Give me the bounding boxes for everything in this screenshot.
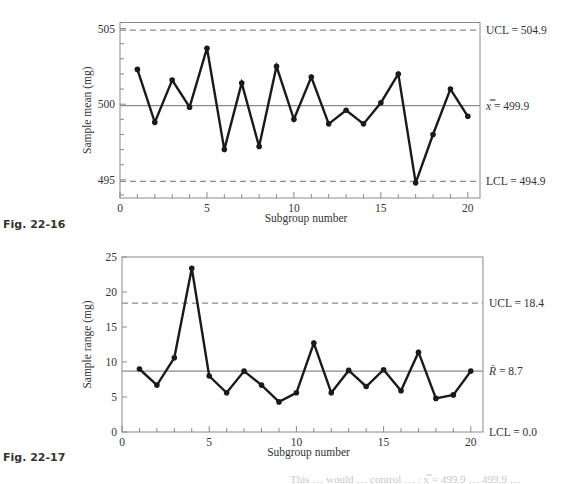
- control-charts-figure: 05101520495500505Subgroup numberSample m…: [0, 0, 561, 484]
- x-tick-label: 0: [119, 436, 125, 448]
- data-point: [328, 390, 334, 396]
- data-point: [346, 368, 352, 374]
- data-point: [172, 355, 178, 361]
- y-tick-label: 10: [106, 356, 118, 368]
- lcl-label: LCL = 494.9: [486, 175, 546, 187]
- x-axis-title: Subgroup number: [267, 446, 350, 459]
- data-point: [224, 390, 230, 396]
- data-point: [239, 80, 245, 86]
- data-point: [309, 74, 315, 80]
- lcl-label: LCL = 0.0: [489, 426, 537, 438]
- x-axis-title: Subgroup number: [265, 212, 348, 225]
- data-point: [430, 132, 436, 138]
- center-line-symbol: R̄: [488, 365, 496, 377]
- data-point: [187, 104, 193, 110]
- range-control-chart: 051015200510152025Subgroup numberSample …: [3, 251, 544, 464]
- data-series-line: [137, 48, 467, 183]
- cut-off-caption-text: This … would … control … : x̿ = 499.9 … …: [290, 473, 520, 484]
- y-tick-label: 0: [111, 426, 117, 438]
- data-point: [343, 107, 349, 113]
- figure-label: Fig. 22-17: [3, 451, 65, 464]
- y-tick-label: 20: [106, 286, 118, 298]
- data-point: [204, 45, 210, 51]
- data-point: [363, 384, 369, 390]
- figure-label: Fig. 22-16: [3, 218, 66, 231]
- data-point: [395, 71, 401, 77]
- data-point: [465, 114, 471, 120]
- ucl-label: UCL = 504.9: [486, 24, 547, 36]
- data-series-line: [139, 268, 470, 402]
- x-tick-label: 20: [465, 436, 477, 448]
- data-point: [259, 382, 265, 388]
- ucl-label: UCL = 18.4: [489, 297, 544, 309]
- data-point: [398, 388, 404, 394]
- data-point: [468, 368, 474, 374]
- data-point: [413, 180, 419, 186]
- data-point: [291, 117, 297, 123]
- x-tick-label: 5: [204, 202, 210, 214]
- data-point: [448, 86, 454, 92]
- data-point: [416, 349, 422, 355]
- y-axis-title: Sample mean (mg): [81, 66, 94, 154]
- y-tick-label: 495: [98, 174, 116, 186]
- y-tick-label: 500: [98, 98, 116, 110]
- data-point: [206, 373, 212, 379]
- data-point: [294, 390, 300, 396]
- data-point: [152, 120, 158, 126]
- data-point: [135, 67, 141, 73]
- center-line-value: = 8.7: [496, 365, 523, 377]
- data-point: [137, 366, 143, 372]
- data-point: [169, 77, 175, 83]
- data-point: [433, 396, 439, 402]
- center-line-value: = 499.9: [491, 100, 529, 112]
- x-tick-label: 0: [117, 202, 123, 214]
- data-point: [189, 265, 195, 271]
- x-tick-label: 15: [375, 202, 387, 214]
- data-point: [154, 382, 160, 388]
- data-point: [222, 147, 228, 153]
- data-point: [378, 100, 384, 106]
- y-tick-label: 5: [111, 391, 117, 403]
- data-point: [326, 121, 332, 127]
- data-point: [361, 121, 367, 127]
- x-tick-label: 15: [378, 436, 390, 448]
- data-point: [381, 367, 387, 373]
- center-line-label: R̄ = 8.7: [488, 365, 523, 377]
- data-point: [276, 399, 282, 405]
- x-tick-label: 20: [462, 202, 474, 214]
- x-tick-label: 5: [206, 436, 212, 448]
- data-point: [256, 144, 262, 150]
- plot-frame: [120, 23, 480, 199]
- center-line-label: x̿ = 499.9: [485, 99, 529, 112]
- data-point: [274, 64, 280, 70]
- data-point: [451, 392, 457, 398]
- y-tick-label: 15: [106, 321, 118, 333]
- xbar-control-chart: 05101520495500505Subgroup numberSample m…: [3, 23, 547, 232]
- data-point: [241, 368, 247, 374]
- y-tick-label: 25: [106, 251, 118, 263]
- y-tick-label: 505: [98, 23, 116, 35]
- data-point: [311, 340, 317, 346]
- y-axis-title: Sample range (mg): [81, 300, 94, 388]
